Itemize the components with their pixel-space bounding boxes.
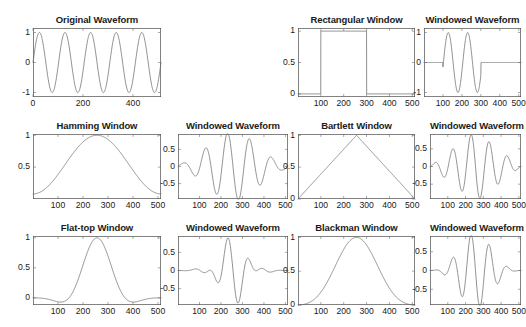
- x-tick-label: 100: [436, 98, 451, 108]
- subplot-title: Windowed Waveform: [424, 14, 521, 25]
- y-tick-label: 0: [422, 161, 427, 171]
- x-tick-label: 500: [278, 306, 293, 316]
- x-tick-label: 100: [314, 200, 329, 210]
- plot-canvas: [33, 236, 161, 305]
- x-tick-label: 100: [314, 98, 329, 108]
- subplot-flat-top-window: Flat-top Window10020030040050000.51: [33, 222, 161, 318]
- plot-canvas: [424, 28, 521, 97]
- subplot-rectangular-windowed-waveform: Windowed Waveform100200300400500-101: [424, 14, 521, 110]
- axes-frame: [298, 28, 414, 96]
- subplot-title: Hamming Window: [33, 120, 161, 131]
- subplot-bartlett-window: Bartlett Window10020030040050000.51: [298, 120, 415, 212]
- y-tick-label: 1: [290, 232, 295, 242]
- data-line: [424, 33, 521, 93]
- x-tick-label: 500: [278, 200, 293, 210]
- y-tick-label: 1: [290, 130, 295, 140]
- data-line: [298, 31, 415, 94]
- x-tick-label: 300: [474, 98, 489, 108]
- subplot-hamming-window: Hamming Window1002003004005000.51: [33, 120, 161, 212]
- x-tick-label: 200: [214, 306, 229, 316]
- x-tick-label: 400: [257, 200, 272, 210]
- empty-subplot-slot: [166, 14, 294, 110]
- subplot-title: Rectangular Window: [298, 14, 415, 25]
- subplot-hamming-windowed-waveform: Windowed Waveform100200300400500-0.500.5: [178, 120, 288, 212]
- axes-area: 10020030040050000.51: [298, 134, 415, 199]
- x-tick-label: 0: [31, 98, 36, 108]
- x-tick-label: 400: [382, 306, 397, 316]
- plot-canvas: [178, 236, 288, 305]
- y-tick-label: 0: [170, 161, 175, 171]
- plot-canvas: [298, 134, 415, 199]
- x-tick-label: 500: [512, 306, 526, 316]
- plot-canvas: [298, 236, 415, 305]
- y-tick-label: -0.5: [160, 178, 175, 188]
- x-tick-label: 100: [441, 306, 456, 316]
- x-tick-label: 400: [382, 200, 397, 210]
- x-tick-label: 300: [235, 306, 250, 316]
- plot-canvas: [298, 28, 415, 97]
- axes-area: 100200300400500-101: [424, 28, 521, 97]
- x-tick-label: 400: [493, 98, 508, 108]
- y-tick-label: 1: [25, 130, 30, 140]
- subplot-bartlett-windowed-waveform: Windowed Waveform100200300400500-0.500.5: [430, 120, 521, 212]
- x-tick-label: 500: [405, 200, 420, 210]
- x-tick-label: 500: [512, 200, 526, 210]
- x-tick-label: 100: [314, 306, 329, 316]
- x-tick-label: 200: [337, 306, 352, 316]
- x-tick-label: 300: [359, 98, 374, 108]
- x-tick-label: 300: [101, 200, 116, 210]
- x-tick-label: 400: [382, 98, 397, 108]
- y-tick-label: 0: [290, 299, 295, 309]
- x-tick-label: 300: [235, 200, 250, 210]
- axes-frame: [298, 236, 414, 304]
- x-tick-label: 100: [441, 200, 456, 210]
- subplot-title: Windowed Waveform: [178, 222, 288, 233]
- x-tick-label: 400: [126, 200, 141, 210]
- y-tick-label: 0: [416, 57, 421, 67]
- axes-area: 100200300400500-0.500.5: [430, 134, 521, 199]
- x-tick-label: 300: [476, 306, 491, 316]
- subplot-title: Windowed Waveform: [430, 120, 521, 131]
- matlab-figure-canvas: Original Waveform0200400-101Rectangular …: [0, 0, 526, 327]
- subplot-blackman-window: Blackman Window10020030040050000.51: [298, 222, 415, 318]
- data-line: [178, 134, 288, 199]
- x-tick-label: 200: [76, 306, 91, 316]
- y-tick-label: 0: [25, 292, 30, 302]
- y-tick-label: 0.5: [163, 144, 175, 154]
- data-line: [430, 236, 521, 305]
- subplot-flattop-windowed-waveform: Windowed Waveform100200300400500-0.500.5: [178, 222, 288, 318]
- axes-area: 1002003004005000.51: [33, 134, 161, 199]
- plot-canvas: [178, 134, 288, 199]
- axes-area: 100200300400500-0.500.5: [430, 236, 521, 305]
- subplot-title: Blackman Window: [298, 222, 415, 233]
- x-tick-label: 200: [76, 200, 91, 210]
- x-tick-label: 500: [405, 306, 420, 316]
- y-tick-label: 0: [290, 193, 295, 203]
- axes-area: 10020030040050000.51: [298, 28, 415, 97]
- y-tick-label: -0.5: [160, 283, 175, 293]
- x-tick-label: 100: [51, 306, 66, 316]
- subplot-rectangular-window: Rectangular Window10020030040050000.51: [298, 14, 415, 110]
- x-tick-label: 500: [512, 98, 526, 108]
- axes-area: 100200300400500-0.500.5: [178, 134, 288, 199]
- subplot-title: Windowed Waveform: [178, 120, 288, 131]
- x-tick-label: 300: [101, 306, 116, 316]
- data-line: [33, 135, 161, 194]
- data-line: [33, 238, 161, 302]
- subplot-title: Flat-top Window: [33, 222, 161, 233]
- axes-frame: [33, 236, 160, 304]
- x-tick-label: 200: [337, 98, 352, 108]
- x-tick-label: 400: [494, 306, 509, 316]
- x-tick-label: 200: [214, 200, 229, 210]
- subplot-title: Windowed Waveform: [430, 222, 521, 233]
- x-tick-label: 200: [337, 200, 352, 210]
- x-tick-label: 200: [458, 306, 473, 316]
- x-tick-label: 200: [455, 98, 470, 108]
- x-tick-label: 300: [359, 306, 374, 316]
- x-tick-label: 400: [494, 200, 509, 210]
- x-tick-label: 200: [76, 98, 91, 108]
- axes-area: 10020030040050000.51: [298, 236, 415, 305]
- y-tick-label: 0.5: [415, 246, 427, 256]
- y-tick-label: 1: [25, 232, 30, 242]
- x-tick-label: 300: [359, 200, 374, 210]
